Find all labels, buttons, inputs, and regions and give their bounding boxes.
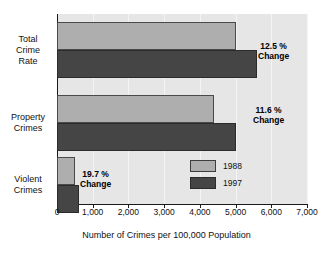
x-tick-label: 4,000 [189, 207, 210, 217]
change-annotation-property-crimes: 11.6 %Change [253, 105, 284, 125]
legend-swatch-1997 [190, 177, 216, 189]
x-tick-label: 1,000 [82, 207, 103, 217]
x-tick-label: 2,000 [118, 207, 139, 217]
category-label-total-crime-rate: TotalCrimeRate [2, 34, 54, 67]
legend-item-1988: 1988 [190, 159, 280, 173]
change-annotation-total-crime-rate: 12.5 %Change [258, 41, 289, 61]
bar-violent-crimes-1988 [57, 157, 75, 185]
category-label-property-crimes: PropertyCrimes [2, 112, 54, 134]
change-percent-label: Change [253, 115, 284, 125]
chart-legend: 1988 1997 [190, 159, 280, 193]
category-label-violent-crimes: ViolentCrimes [2, 174, 54, 196]
legend-label-1988: 1988 [223, 160, 242, 172]
bar-violent-crimes-1997 [57, 185, 79, 213]
legend-item-1997: 1997 [190, 176, 280, 190]
change-percent-label: Change [80, 179, 111, 189]
x-axis-title: Number of Crimes per 100,000 Population [0, 230, 333, 240]
bar-property-crimes-1988 [57, 95, 214, 123]
category-label-line: Total [2, 34, 54, 45]
x-tick-label: 7,000 [296, 207, 317, 217]
x-tick-label: 5,000 [225, 207, 246, 217]
category-label-line: Violent [2, 174, 54, 185]
change-annotation-violent-crimes: 19.7 %Change [80, 169, 111, 189]
bar-total-crime-rate-1988 [57, 22, 236, 50]
change-percent-value: 19.7 % [80, 169, 111, 179]
category-label-line: Crime [2, 45, 54, 56]
crime-rate-bar-chart: TotalCrimeRatePropertyCrimesViolentCrime… [0, 0, 333, 257]
category-label-line: Crimes [2, 185, 54, 196]
bar-property-crimes-1997 [57, 123, 236, 151]
category-label-line: Rate [2, 56, 54, 67]
gridline [307, 14, 308, 204]
change-percent-label: Change [258, 51, 289, 61]
category-label-line: Property [2, 112, 54, 123]
bar-total-crime-rate-1997 [57, 50, 257, 78]
change-percent-value: 12.5 % [258, 41, 289, 51]
change-percent-value: 11.6 % [253, 105, 284, 115]
x-tick-label: 0 [55, 207, 60, 217]
category-label-line: Crimes [2, 123, 54, 134]
legend-swatch-1988 [190, 160, 216, 172]
x-tick-label: 6,000 [261, 207, 282, 217]
legend-label-1997: 1997 [223, 177, 242, 189]
x-tick-label: 3,000 [154, 207, 175, 217]
